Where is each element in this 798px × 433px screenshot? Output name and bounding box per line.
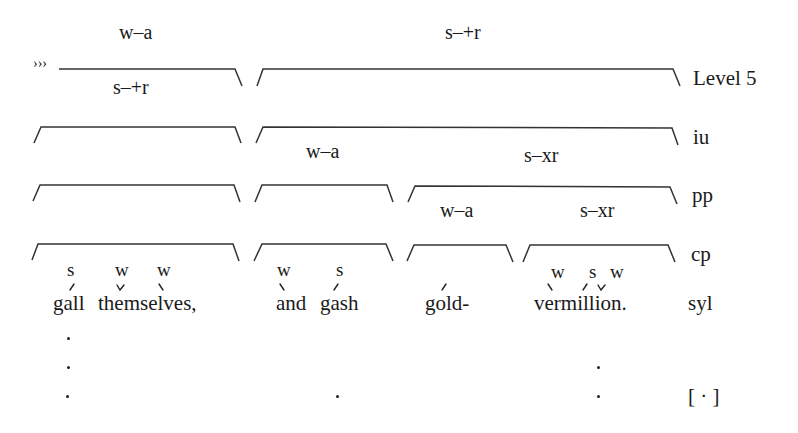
pause-dot <box>66 395 69 398</box>
syllable-word: gold- <box>425 293 469 313</box>
syllable-word: themselves, <box>98 293 197 313</box>
acute-mark-gall <box>70 284 74 290</box>
acute-mark-mil <box>583 284 587 290</box>
pp-label: pp <box>692 185 713 205</box>
stress-mark: w <box>157 260 171 280</box>
level5-label: Level 5 <box>693 68 757 88</box>
cp-bracket-2 <box>254 244 393 261</box>
syllable-word: vermillion. <box>534 293 627 313</box>
cp-label: cp <box>691 244 711 264</box>
pause-dot <box>67 337 70 340</box>
cp-bracket-3 <box>407 245 513 262</box>
stress-mark: s <box>67 260 74 280</box>
breve-mark-lion <box>598 285 605 290</box>
stress-mark: w <box>551 262 565 282</box>
stress-mark: w <box>115 260 129 280</box>
pause-label: [ · ] <box>688 386 719 406</box>
acute-mark-gold <box>442 284 446 290</box>
pp-bracket3-right-label: s–xr <box>580 200 614 220</box>
pp-bracket-2 <box>255 185 393 202</box>
cp-bracket-1 <box>32 244 239 261</box>
continuation-marker: ››› <box>33 54 47 74</box>
syllable-word: gall <box>53 293 85 313</box>
pause-dot <box>336 395 339 398</box>
pause-dot <box>597 366 600 369</box>
breve-mark-them <box>117 285 124 290</box>
stress-mark: s <box>589 262 596 282</box>
level5-bracket-2 <box>257 69 680 86</box>
stress-mark: s <box>336 260 343 280</box>
grave-mark-and <box>280 284 284 290</box>
level5-bracket-1 <box>59 69 242 86</box>
syllable-word: and <box>276 293 306 313</box>
iu-bracket2-left-label: w–a <box>306 141 339 161</box>
cp-bracket-4 <box>523 245 675 262</box>
pause-dot <box>67 366 70 369</box>
bracket-lines <box>0 0 798 433</box>
level5-bracket1-above-label: w–a <box>119 22 152 42</box>
pp-bracket-1 <box>33 185 240 202</box>
grave-mark-selves <box>159 284 163 290</box>
pause-dot <box>597 395 600 398</box>
iu-label: iu <box>693 127 709 147</box>
level5-bracket1-below-label: s–+r <box>113 77 149 97</box>
level5-bracket2-above-label: s–+r <box>445 22 481 42</box>
stress-mark: w <box>610 262 624 282</box>
pp-bracket3-left-label: w–a <box>440 200 473 220</box>
acute-mark-gash <box>334 284 338 290</box>
iu-bracket-1 <box>34 127 241 143</box>
syllable-label: syl <box>688 293 713 313</box>
grave-mark-ver <box>548 284 552 290</box>
iu-bracket2-right-label: s–xr <box>524 145 558 165</box>
stress-mark: w <box>277 260 291 280</box>
syllable-word: gash <box>320 293 359 313</box>
